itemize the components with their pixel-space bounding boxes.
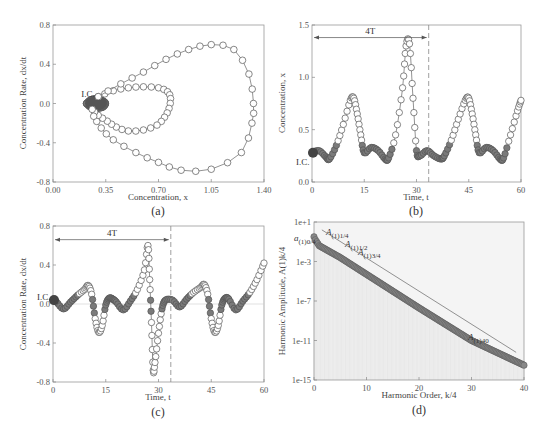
data-marker xyxy=(406,41,412,47)
x-tick-label: 0.35 xyxy=(98,185,113,195)
data-marker xyxy=(408,64,414,70)
y-tick-label: -0.8 xyxy=(37,177,50,187)
data-marker xyxy=(261,260,267,266)
data-marker xyxy=(400,73,406,79)
panel-d-label: (d) xyxy=(412,403,426,417)
data-marker xyxy=(178,167,185,174)
data-marker xyxy=(410,95,416,101)
data-marker xyxy=(502,151,508,157)
data-marker xyxy=(95,93,102,100)
data-marker xyxy=(246,71,253,78)
data-marker xyxy=(249,120,256,127)
harmonic-marker xyxy=(521,362,527,368)
data-marker xyxy=(146,255,152,261)
panel-c-xlabel: Time, t xyxy=(145,392,171,402)
data-marker xyxy=(206,303,212,309)
data-marker xyxy=(396,109,402,115)
data-marker xyxy=(125,128,132,135)
panel-b-ylabel: Concentration, x xyxy=(277,73,287,133)
data-marker xyxy=(245,135,252,142)
data-marker xyxy=(133,84,140,91)
data-marker xyxy=(155,159,162,166)
x-tick-label: 60 xyxy=(517,185,526,195)
data-marker xyxy=(250,100,257,107)
data-marker xyxy=(394,121,400,127)
data-marker xyxy=(220,42,227,49)
y-tick-label: 1e+1 xyxy=(294,217,311,227)
panel-d-xlabel: Harmonic Order, k/4 xyxy=(382,390,457,400)
y-tick-label: 1e-15 xyxy=(292,375,311,385)
x-tick-label: 45 xyxy=(207,385,216,395)
data-marker xyxy=(146,266,152,272)
panel-b-xlabel: Time, t xyxy=(403,192,429,202)
y-tick-label: -0.8 xyxy=(37,377,50,387)
data-marker xyxy=(147,286,153,292)
data-marker xyxy=(151,62,158,69)
data-marker xyxy=(156,323,162,329)
data-marker xyxy=(91,310,97,316)
x-tick-label: 10 xyxy=(362,383,371,393)
data-marker xyxy=(398,97,404,103)
y-tick-label: 0.0 xyxy=(298,177,309,187)
data-marker xyxy=(118,81,125,88)
figure: 0.000.350.701.051.40-0.8-0.40.00.40.8 I.… xyxy=(0,0,548,439)
period-label: 4T xyxy=(365,26,376,36)
data-marker xyxy=(239,57,246,64)
data-marker xyxy=(140,84,147,91)
ic-annotation: I.C. xyxy=(81,89,95,99)
initial-condition-marker xyxy=(49,295,59,305)
data-marker xyxy=(389,146,395,152)
panel-c-data: 4TI.C. xyxy=(37,226,267,382)
data-marker xyxy=(148,84,155,91)
x-tick-label: 60 xyxy=(260,385,269,395)
data-marker xyxy=(340,121,346,127)
initial-condition-marker xyxy=(308,148,318,158)
data-marker xyxy=(207,310,213,316)
data-marker xyxy=(147,125,154,132)
data-marker xyxy=(507,132,513,138)
data-marker xyxy=(197,43,204,50)
data-marker xyxy=(125,85,132,92)
data-marker xyxy=(208,166,215,173)
panel-b-data: 4TI.C. xyxy=(296,25,524,182)
data-marker xyxy=(231,46,238,53)
x-tick-label: 15 xyxy=(102,385,111,395)
ic-annotation: I.C. xyxy=(37,292,51,302)
panel-a-label: (a) xyxy=(151,204,164,218)
data-marker xyxy=(509,125,515,131)
data-marker xyxy=(140,127,147,134)
data-marker xyxy=(101,312,107,318)
y-tick-label: 0.5 xyxy=(298,125,309,135)
data-marker xyxy=(250,110,257,117)
data-marker xyxy=(399,85,405,91)
data-marker xyxy=(152,359,158,365)
x-tick-label: 1.40 xyxy=(257,185,272,195)
y-tick-label: 0.8 xyxy=(39,221,50,231)
y-tick-label: 0.0 xyxy=(39,99,50,109)
panel-a-ticks: 0.000.350.701.051.40-0.8-0.40.00.40.8 xyxy=(37,20,272,195)
data-marker xyxy=(90,113,97,120)
data-marker xyxy=(89,296,95,302)
data-marker xyxy=(98,125,105,132)
data-marker xyxy=(412,138,418,144)
panel-b-concentration-time: 0153045600.00.51.01.5 4TI.C. Time, t Con… xyxy=(277,20,525,218)
data-marker xyxy=(192,168,199,175)
x-tick-label: 30 xyxy=(467,383,476,393)
data-marker xyxy=(506,138,512,144)
x-tick-label: 40 xyxy=(520,383,529,393)
y-tick-label: 0.4 xyxy=(39,260,50,270)
y-tick-label: 1e-7 xyxy=(296,296,311,306)
data-marker xyxy=(217,312,223,318)
y-tick-label: 1.5 xyxy=(298,20,309,30)
data-marker xyxy=(148,319,154,325)
data-marker xyxy=(153,353,159,359)
data-marker xyxy=(391,140,397,146)
y-tick-label: 0.8 xyxy=(39,20,50,30)
x-tick-label: 15 xyxy=(360,185,369,195)
data-marker xyxy=(511,119,517,125)
x-tick-label: 45 xyxy=(465,185,474,195)
panel-d-harmonic-spectrum: 0102030401e+11e-31e-71e-111e-15 a(1)0/4A… xyxy=(277,217,528,417)
data-marker xyxy=(401,61,407,67)
data-marker xyxy=(163,56,170,63)
data-marker xyxy=(132,128,139,135)
